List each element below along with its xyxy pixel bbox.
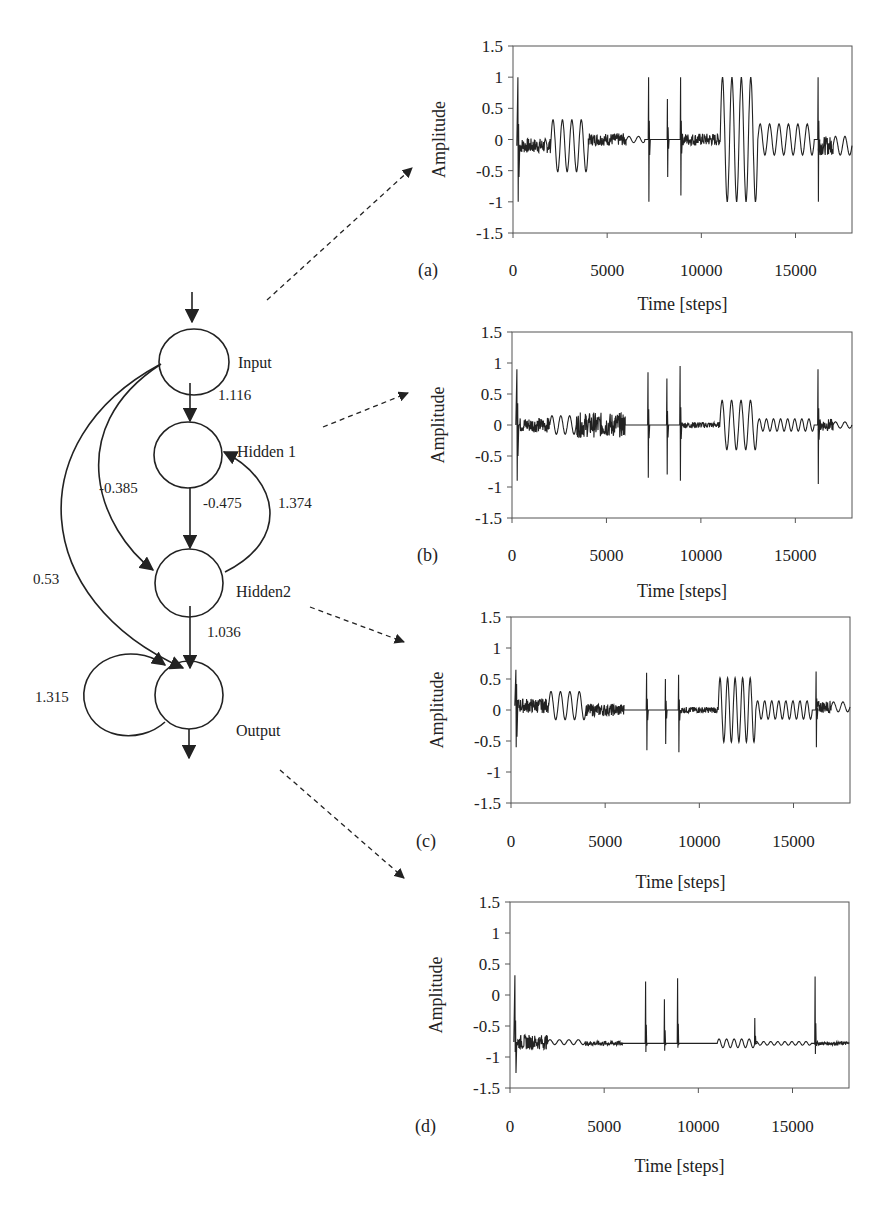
weight-input-hidden1: 1.116 [218, 387, 252, 403]
y-axis-label: Amplitude [427, 671, 447, 748]
plot-d: 1.510.50-0.5-1-1.5050001000015000(d)Time… [415, 893, 849, 1176]
x-tick-label: 15000 [772, 832, 815, 851]
x-tick-label: 10000 [677, 1117, 720, 1136]
x-tick-label: 10000 [680, 261, 723, 280]
plots: 1.510.50-0.5-1-1.5050001000015000(a)Time… [415, 37, 852, 1176]
edge-output-self [84, 654, 165, 736]
y-tick-label: 1 [495, 68, 504, 87]
x-tick-label: 10000 [680, 546, 723, 565]
node-input [159, 329, 229, 395]
y-tick-label: -1 [488, 478, 502, 497]
y-tick-label: -1.5 [473, 1079, 500, 1098]
x-tick-label: 15000 [774, 261, 817, 280]
pointer-arrow-a [267, 168, 412, 300]
y-tick-label: -1.5 [474, 794, 501, 813]
weight-hidden2-hidden1: 1.374 [278, 495, 312, 511]
x-tick-label: 5000 [590, 261, 624, 280]
weight-input-output: 0.53 [33, 571, 59, 587]
edge-input-hidden2 [99, 364, 161, 570]
waveform-line [515, 670, 850, 753]
y-tick-label: 1 [493, 639, 502, 658]
weight-hidden2-output: 1.036 [207, 624, 241, 640]
weight-input-hidden2: -0.385 [99, 480, 138, 496]
y-tick-label: 0.5 [479, 955, 500, 974]
y-tick-label: -1 [487, 763, 501, 782]
weight-hidden1-hidden2: -0.475 [203, 495, 242, 511]
node-hidden1 [154, 422, 222, 488]
figure: Input Hidden 1 Hidden2 Output 1.116 -0.3… [0, 0, 884, 1212]
y-tick-label: 1.5 [480, 608, 501, 627]
plot-a: 1.510.50-0.5-1-1.5050001000015000(a)Time… [418, 37, 852, 314]
node-output [155, 661, 223, 729]
edge-hidden2-hidden1 [224, 452, 270, 572]
waveform-line [514, 975, 849, 1073]
node-label-input: Input [238, 354, 272, 372]
x-tick-label: 0 [509, 261, 518, 280]
x-tick-label: 5000 [589, 546, 623, 565]
x-axis-label: Time [steps] [635, 1156, 725, 1176]
y-tick-label: 0.5 [480, 670, 501, 689]
plot-c: 1.510.50-0.5-1-1.5050001000015000(c)Time… [416, 608, 850, 892]
panel-label: (a) [418, 260, 438, 281]
y-tick-label: 1.5 [479, 893, 500, 912]
y-tick-label: -0.5 [474, 732, 501, 751]
x-tick-label: 0 [508, 546, 517, 565]
pointer-arrow-c [310, 607, 404, 642]
y-tick-label: 0 [495, 131, 504, 150]
y-tick-label: 0.5 [482, 99, 503, 118]
panel-label: (d) [415, 1116, 436, 1137]
edge-input-output [61, 365, 183, 668]
y-tick-label: 0 [494, 416, 503, 435]
pointer-arrow-b [323, 393, 408, 427]
y-tick-label: 1.5 [482, 37, 503, 56]
pointer-arrow-d [280, 770, 404, 878]
y-tick-label: 1 [492, 924, 501, 943]
y-tick-label: 1 [494, 354, 503, 373]
x-tick-label: 0 [506, 1117, 515, 1136]
panel-label: (c) [416, 831, 436, 852]
y-tick-label: -0.5 [475, 447, 502, 466]
y-axis-label: Amplitude [429, 101, 449, 178]
x-tick-label: 15000 [771, 1117, 814, 1136]
y-tick-label: -1 [489, 193, 503, 212]
x-axis-label: Time [steps] [638, 294, 728, 314]
node-label-output: Output [236, 722, 281, 740]
y-tick-label: 0 [492, 986, 501, 1005]
x-tick-label: 5000 [588, 832, 622, 851]
x-tick-label: 10000 [678, 832, 721, 851]
x-tick-label: 15000 [774, 546, 817, 565]
y-tick-label: 1.5 [481, 323, 502, 342]
y-tick-label: -1.5 [475, 509, 502, 528]
x-axis-label: Time [steps] [636, 872, 726, 892]
waveform-line [516, 366, 852, 484]
x-tick-label: 5000 [587, 1117, 621, 1136]
panel-label: (b) [417, 545, 438, 566]
plot-b: 1.510.50-0.5-1-1.5050001000015000(b)Time… [417, 323, 852, 601]
weight-output-self: 1.315 [35, 689, 69, 705]
x-axis-label: Time [steps] [637, 581, 727, 601]
node-label-hidden1: Hidden 1 [237, 443, 296, 460]
y-tick-label: -0.5 [476, 162, 503, 181]
y-tick-label: -1.5 [476, 224, 503, 243]
x-tick-label: 0 [507, 832, 516, 851]
y-tick-label: -1 [486, 1048, 500, 1067]
y-axis-label: Amplitude [426, 956, 446, 1033]
node-hidden2 [155, 549, 223, 617]
y-tick-label: 0.5 [481, 385, 502, 404]
plot-frame [510, 902, 849, 1088]
node-label-hidden2: Hidden2 [236, 583, 291, 600]
y-axis-label: Amplitude [428, 386, 448, 463]
waveform-line [517, 77, 852, 202]
y-tick-label: 0 [493, 701, 502, 720]
y-tick-label: -0.5 [473, 1017, 500, 1036]
